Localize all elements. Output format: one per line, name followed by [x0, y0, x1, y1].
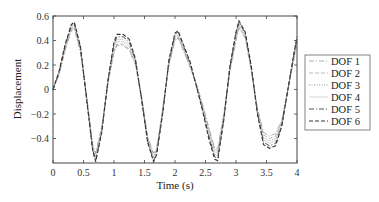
- legend-label-2: DOF 2: [331, 68, 360, 79]
- series-line-5: [53, 22, 297, 161]
- x-tick-label: 3.5: [260, 167, 273, 178]
- series-line-4: [53, 23, 297, 158]
- y-axis-label: Displacement: [11, 59, 23, 119]
- series-line-6: [53, 21, 297, 162]
- x-tick-label: 2: [173, 167, 178, 178]
- series-line-1: [53, 28, 297, 153]
- x-tick-label: 0.5: [77, 167, 90, 178]
- legend-label-6: DOF 6: [331, 116, 360, 127]
- y-tick-label: −0.4: [31, 133, 49, 144]
- legend-label-1: DOF 1: [331, 56, 360, 67]
- y-tick-label: −0.2: [31, 109, 49, 120]
- x-tick-label: 1.5: [138, 167, 151, 178]
- series-line-3: [53, 25, 297, 157]
- y-tick-label: 0.6: [37, 11, 50, 22]
- legend-label-5: DOF 5: [331, 104, 360, 115]
- plot-frame: [53, 16, 297, 163]
- x-tick-label: 1: [112, 167, 117, 178]
- x-tick-label: 0: [51, 167, 56, 178]
- legend: DOF 1DOF 2DOF 3DOF 4DOF 5DOF 6: [305, 55, 370, 130]
- x-tick-label: 2.5: [199, 167, 212, 178]
- plot-lines: [53, 21, 297, 162]
- y-tick-label: 0: [44, 84, 49, 95]
- legend-label-3: DOF 3: [331, 80, 360, 91]
- x-tick-label: 4: [295, 167, 300, 178]
- x-tick-label: 3: [234, 167, 239, 178]
- y-tick-label: 0.2: [37, 60, 50, 71]
- line-chart: 00.511.522.533.54 −0.4−0.200.20.40.6 Tim…: [0, 0, 379, 202]
- x-axis-label: Time (s): [156, 179, 194, 192]
- y-tick-label: 0.4: [37, 35, 50, 46]
- series-line-2: [53, 27, 297, 154]
- legend-label-4: DOF 4: [331, 92, 361, 103]
